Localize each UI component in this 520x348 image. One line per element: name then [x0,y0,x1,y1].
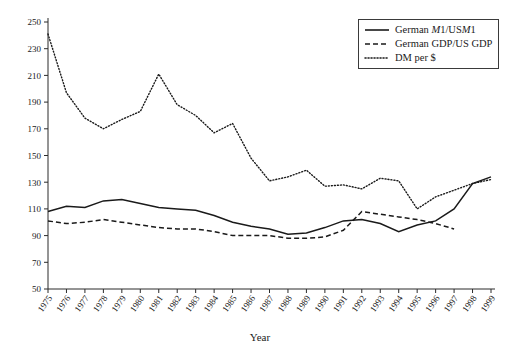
x-tick-label: 1990 [312,293,331,314]
x-tick-label: 1989 [294,293,313,314]
legend-item-german-m1[interactable]: German M1/USM1 [364,23,492,37]
y-tick-label: 110 [28,204,42,214]
x-tick-label: 1993 [368,293,387,314]
x-tick-label: 1975 [36,293,55,314]
x-tick-label: 1976 [54,293,73,314]
series-path-dashed [48,212,454,239]
chart-legend: German M1/USM1 German GDP/US GDP DM per … [358,19,499,69]
x-tick-label: 1986 [239,293,258,314]
x-tick-label: 1996 [423,293,442,314]
legend-swatch-solid [364,25,390,35]
y-axis-ticks: 507090110130150170190210230250 [28,17,49,294]
y-tick-label: 90 [32,231,42,241]
y-tick-label: 50 [32,284,42,294]
y-tick-label: 70 [32,258,42,268]
legend-item-dm-per-dollar[interactable]: DM per $ [364,51,492,65]
x-tick-label: 1984 [202,293,221,314]
y-tick-label: 230 [28,44,42,54]
x-tick-label: 1991 [331,293,350,313]
chart-figure: 507090110130150170190210230250 197519761… [0,0,520,348]
legend-swatch-dotted [364,53,390,63]
x-tick-label: 1994 [386,293,405,314]
y-tick-label: 130 [28,178,42,188]
x-tick-label: 1999 [479,293,498,314]
x-tick-label: 1978 [91,293,110,314]
y-tick-label: 210 [28,71,42,81]
y-tick-label: 250 [28,17,42,27]
x-tick-label: 1977 [73,293,92,314]
x-tick-label: 1987 [257,293,276,314]
x-tick-label: 1979 [109,293,128,314]
legend-label-dm-per-dollar: DM per $ [395,52,436,64]
x-tick-label: 1980 [128,293,147,314]
x-tick-label: 1988 [276,293,295,314]
legend-label-german-m1: German M1/USM1 [395,24,476,36]
x-axis-title: Year [250,331,271,343]
x-tick-label: 1982 [165,293,184,313]
x-tick-label: 1998 [460,293,479,314]
series-path-solid [48,177,491,234]
x-tick-label: 1981 [146,293,165,313]
x-tick-label: 1995 [405,293,424,314]
y-tick-label: 150 [28,151,42,161]
x-tick-label: 1985 [220,293,239,314]
y-tick-label: 190 [28,97,42,107]
legend-item-german-gdp[interactable]: German GDP/US GDP [364,37,492,51]
x-tick-label: 1992 [349,293,368,313]
y-tick-label: 170 [28,124,42,134]
x-axis-ticks: 1975197619771978197919801981198219831984… [36,289,498,314]
x-tick-label: 1997 [442,293,461,314]
x-tick-label: 1983 [183,293,202,314]
legend-label-german-gdp: German GDP/US GDP [395,38,492,50]
legend-swatch-dashed [364,39,390,49]
